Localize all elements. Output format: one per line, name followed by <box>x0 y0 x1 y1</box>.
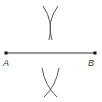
construction-diagram: A B <box>0 0 102 102</box>
point-a-label: A <box>2 58 9 68</box>
point-b-label: B <box>88 58 94 68</box>
point-b <box>94 52 97 55</box>
arc-top-from-a <box>50 6 58 40</box>
arc-top-from-b <box>43 6 51 40</box>
point-a <box>5 52 8 55</box>
